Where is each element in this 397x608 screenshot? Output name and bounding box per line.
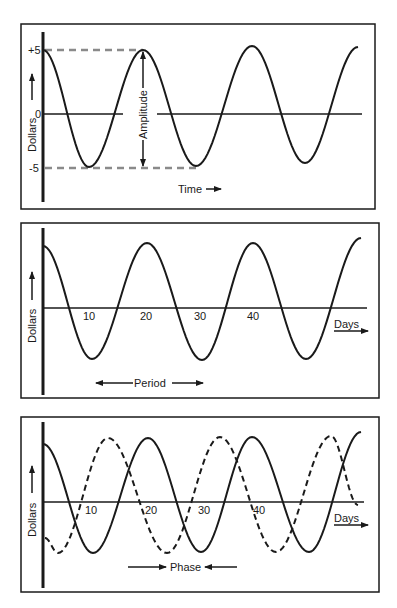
y-axis-label: Dollars (26, 502, 38, 537)
panel-amplitude: +5 0 -5 Dollars Amplitude Time (21, 24, 375, 209)
y-axis-label: Dollars (26, 117, 38, 152)
amplitude-label: Amplitude (137, 90, 149, 139)
x-axis-label-days: Days (334, 512, 360, 524)
panel-period: Dollars 10 20 30 40 Days Period (21, 223, 379, 398)
panel-border (21, 24, 375, 209)
solid-sine-wave (43, 432, 361, 553)
sine-wave (43, 238, 361, 360)
x-axis-label-days: Days (334, 318, 360, 330)
sine-wave (43, 46, 358, 167)
x-tick-30: 30 (198, 504, 210, 516)
period-label: Period (134, 377, 166, 389)
phase-label: Phase (170, 561, 201, 573)
x-tick-40: 40 (247, 310, 259, 322)
x-tick-10: 10 (83, 310, 95, 322)
x-tick-10: 10 (85, 504, 97, 516)
dashed-sine-wave (45, 436, 358, 553)
y-tick-plus5: +5 (28, 44, 41, 56)
x-axis-label-time: Time (178, 183, 202, 195)
panel-phase: Dollars 10 20 30 40 Days Phase (21, 417, 379, 592)
wave-diagram-figure: +5 0 -5 Dollars Amplitude Time Dollars 1… (0, 0, 397, 608)
x-tick-20: 20 (145, 504, 157, 516)
x-tick-40: 40 (253, 504, 265, 516)
x-tick-30: 30 (194, 310, 206, 322)
x-tick-20: 20 (140, 310, 152, 322)
y-axis-label: Dollars (26, 308, 38, 343)
y-tick-minus5: -5 (29, 162, 39, 174)
